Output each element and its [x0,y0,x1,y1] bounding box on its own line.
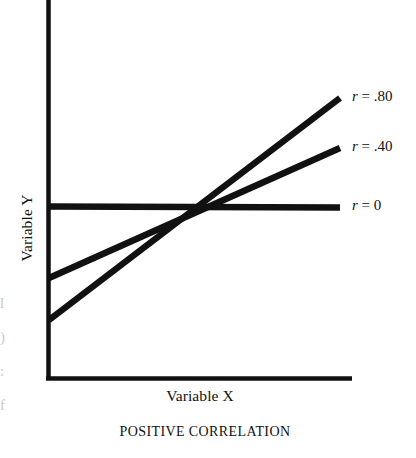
page-edge-fragments: l):fe [0,286,14,422]
series-label-r40-symbol: r [352,138,358,154]
series-line-r0 [49,207,340,208]
series-label-r0-symbol: r [352,197,358,213]
series-label-r40-value: = .40 [362,138,393,154]
x-axis-label: Variable X [47,387,353,405]
correlation-figure: Variable Y Variable X r = .80 r = .40 r … [0,0,416,458]
series-label-r0: r = 0 [352,198,381,213]
figure-caption: POSITIVE CORRELATION [30,424,380,440]
series-label-r40: r = .40 [352,139,393,154]
series-label-r80-value: = .80 [362,88,393,104]
series-line-r40 [49,148,340,278]
page-edge-fragment: ) [0,320,14,354]
page-edge-fragment: f [0,388,14,422]
series-label-r80: r = .80 [352,89,393,104]
series-label-r0-value: = 0 [362,197,382,213]
y-axis-label: Variable Y [14,138,40,318]
series-label-r80-symbol: r [352,88,358,104]
page-edge-fragment: : [0,354,14,388]
page-edge-fragment: l [0,286,14,320]
